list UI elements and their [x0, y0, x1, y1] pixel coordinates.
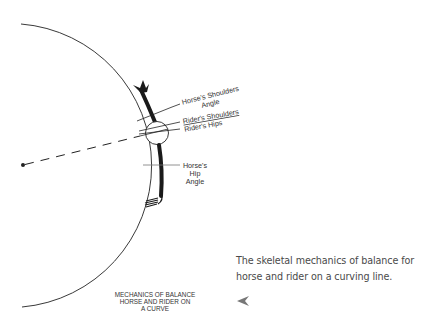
horse-ears-icon: [133, 80, 149, 93]
caption-line-1: The skeletal mechanics of balance for: [236, 253, 421, 269]
horse-hip-label: Horse's Hip Angle: [183, 161, 208, 186]
horse-shoulders-leader: [172, 104, 180, 107]
curve-arc: [21, 24, 152, 307]
svg-text:MECHANICS OF BALANCE: MECHANICS OF BALANCE: [115, 291, 196, 298]
svg-text:HORSE AND RIDER ON: HORSE AND RIDER ON: [120, 298, 191, 305]
horse-spine-rear: [159, 145, 162, 196]
caption-line-2: horse and rider on a curving line.: [236, 269, 421, 285]
svg-text:Angle: Angle: [186, 177, 204, 186]
left-arrowhead-icon: [237, 296, 249, 306]
diagram-title: MECHANICS OF BALANCE HORSE AND RIDER ON …: [115, 291, 196, 312]
radius-dashed-line: [25, 136, 140, 165]
svg-text:A CURVE: A CURVE: [141, 305, 169, 312]
rider-labels: Rider's Shoulders Rider's Hips: [182, 107, 241, 134]
figure-caption: The skeletal mechanics of balance for ho…: [236, 253, 421, 285]
center-point: [21, 163, 25, 167]
